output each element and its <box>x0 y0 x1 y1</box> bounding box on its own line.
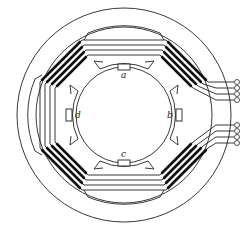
yoke-circle <box>36 27 212 203</box>
label-d: d <box>75 110 81 120</box>
brush-d <box>66 109 72 121</box>
brush-b <box>176 109 182 121</box>
stator-winding-diagram: a b c d <box>0 0 247 229</box>
terminal-upper-1 <box>235 80 240 85</box>
terminal-upper-3 <box>235 92 240 97</box>
terminal-lower-4 <box>235 141 240 146</box>
terminal-upper-4 <box>235 98 240 103</box>
terminal-lower-2 <box>235 129 240 134</box>
label-c: c <box>121 149 126 159</box>
terminal-upper-2 <box>235 86 240 91</box>
terminal-lower-1 <box>235 123 240 128</box>
brush-c <box>118 160 130 166</box>
terminal-lower-3 <box>235 135 240 140</box>
label-b: b <box>167 110 173 120</box>
terminals <box>235 80 240 146</box>
label-a: a <box>121 70 126 80</box>
